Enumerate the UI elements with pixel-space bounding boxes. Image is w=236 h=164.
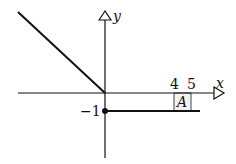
function-graph-figure: y x 4 5 −1 A xyxy=(0,0,236,164)
region-a-label: A xyxy=(175,94,187,110)
y-axis-arrow-icon xyxy=(99,11,111,20)
tick-label-4: 4 xyxy=(170,76,179,92)
filled-point-icon xyxy=(102,108,108,114)
y-axis-label: y xyxy=(112,8,122,24)
tick-label-5: 5 xyxy=(187,76,196,92)
diagonal-line xyxy=(18,12,105,93)
tick-label-minus-1: −1 xyxy=(80,103,101,119)
x-axis-label: x xyxy=(216,75,224,91)
